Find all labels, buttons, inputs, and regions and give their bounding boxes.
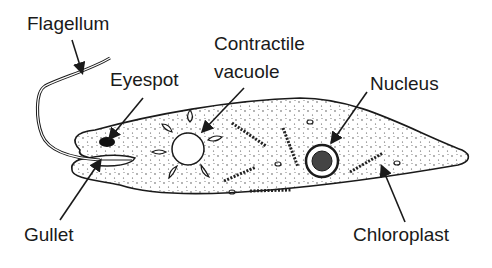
label-flagellum: Flagellum xyxy=(27,14,109,35)
label-contractile-vacuole-line2: vacuole xyxy=(214,62,280,83)
label-eyespot: Eyespot xyxy=(110,70,179,91)
eyespot-shape xyxy=(99,137,115,147)
label-nucleus: Nucleus xyxy=(370,74,439,95)
nucleus-shape xyxy=(306,145,338,177)
label-gullet: Gullet xyxy=(24,225,74,246)
label-chloroplast: Chloroplast xyxy=(353,225,449,246)
euglena-diagram: Flagellum Eyespot Contractile vacuole Nu… xyxy=(0,0,492,268)
label-contractile-vacuole-line1: Contractile xyxy=(214,34,305,55)
